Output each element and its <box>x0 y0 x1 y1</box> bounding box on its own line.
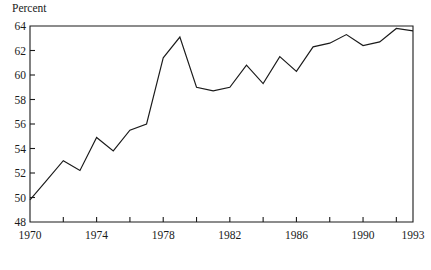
x-tick-label: 1982 <box>218 229 241 241</box>
x-tick-label: 1993 <box>402 229 425 241</box>
x-tick-label: 1986 <box>285 229 308 241</box>
y-tick-label: 52 <box>15 167 27 179</box>
y-tick-label: 64 <box>15 20 27 32</box>
plot-border <box>30 26 413 222</box>
y-tick-label: 48 <box>15 216 27 228</box>
y-tick-label: 54 <box>15 143 27 155</box>
y-axis-tick-labels: 485052545658606264 <box>15 20 27 228</box>
x-tick-label: 1970 <box>19 229 42 241</box>
x-tick-label: 1978 <box>152 229 175 241</box>
line-chart: 485052545658606264 197019741978198219861… <box>0 0 431 270</box>
plot-frame <box>30 26 413 222</box>
data-series-group <box>30 28 413 200</box>
y-tick-label: 50 <box>15 192 27 204</box>
x-tick-label: 1990 <box>352 229 375 241</box>
y-tick-label: 58 <box>15 94 27 106</box>
chart-page: Percent 485052545658606264 1970197419781… <box>0 0 431 270</box>
x-tick-label: 1974 <box>85 229 108 241</box>
x-axis-tick-labels: 1970197419781982198619901993 <box>19 229 425 241</box>
series-line-percent <box>30 28 413 200</box>
axis-tick-marks <box>30 51 396 223</box>
y-tick-label: 60 <box>15 69 27 81</box>
y-tick-label: 56 <box>15 118 27 130</box>
y-tick-label: 62 <box>15 45 27 57</box>
